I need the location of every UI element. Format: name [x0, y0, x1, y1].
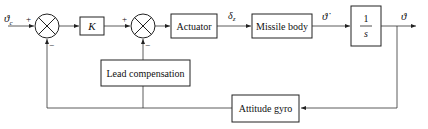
output-label: ϑ: [401, 10, 407, 22]
theta-dot-label: ϑ̇: [322, 10, 331, 22]
attitude-gyro-label: Attitude gyro: [239, 103, 293, 114]
missile-body-block: Missile body: [252, 14, 312, 38]
actuator-label: Actuator: [177, 21, 213, 32]
input-label: ϑc: [4, 12, 13, 27]
attitude-gyro-block: Attitude gyro: [232, 95, 299, 122]
sum1-plus-sign: +: [26, 14, 31, 24]
sum2-plus-sign: +: [122, 14, 127, 24]
summing-junction-1: [35, 14, 59, 38]
delta-z-label: δz: [228, 10, 236, 23]
sum1-minus-sign: −: [49, 40, 54, 50]
lead-compensation-label: Lead compensation: [106, 68, 184, 79]
sum2-minus-sign: −: [145, 40, 150, 50]
lead-compensation-block: Lead compensation: [101, 60, 190, 86]
gain-label: K: [87, 20, 96, 32]
block-diagram: ϑc + − K + − Actuator δz Missile body ϑ̇: [0, 0, 428, 129]
integrator-block: 1 s: [351, 6, 381, 46]
missile-body-label: Missile body: [256, 21, 308, 32]
summing-junction-2: [131, 14, 155, 38]
actuator-block: Actuator: [171, 14, 217, 38]
feedback-line-to-gyro: [301, 26, 397, 108]
integrator-denominator: s: [364, 28, 368, 39]
integrator-numerator: 1: [364, 13, 369, 24]
gain-block: K: [80, 17, 104, 35]
